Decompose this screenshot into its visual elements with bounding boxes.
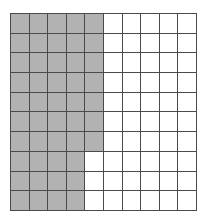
grid-cell-shaded bbox=[48, 112, 67, 132]
grid-cell-empty bbox=[141, 92, 160, 112]
grid-cell-empty bbox=[122, 171, 141, 191]
grid-row bbox=[11, 92, 197, 112]
grid-cell-shaded bbox=[48, 53, 67, 73]
grid-cell-shaded bbox=[11, 171, 30, 191]
grid-cell-empty bbox=[178, 92, 197, 112]
grid-cell-empty bbox=[141, 53, 160, 73]
grid-cell-empty bbox=[159, 171, 178, 191]
grid-cell-shaded bbox=[66, 14, 85, 34]
grid-cell-empty bbox=[103, 14, 122, 34]
grid-cell-empty bbox=[178, 171, 197, 191]
grid-cell-shaded bbox=[29, 92, 48, 112]
grid-cell-empty bbox=[122, 132, 141, 152]
grid-cell-shaded bbox=[29, 171, 48, 191]
grid-cell-empty bbox=[103, 151, 122, 171]
grid-cell-shaded bbox=[66, 151, 85, 171]
grid-cell-empty bbox=[122, 53, 141, 73]
grid-cell-shaded bbox=[85, 132, 104, 152]
grid-cell-shaded bbox=[48, 171, 67, 191]
grid-cell-shaded bbox=[48, 33, 67, 53]
grid-table bbox=[10, 13, 197, 211]
grid-cell-empty bbox=[141, 151, 160, 171]
grid-cell-shaded bbox=[48, 151, 67, 171]
grid-cell-empty bbox=[122, 151, 141, 171]
grid-cell-shaded bbox=[11, 132, 30, 152]
grid-cell-empty bbox=[103, 53, 122, 73]
grid-cell-shaded bbox=[66, 191, 85, 211]
grid-cell-empty bbox=[85, 151, 104, 171]
grid-cell-shaded bbox=[48, 92, 67, 112]
grid-cell-empty bbox=[178, 191, 197, 211]
grid-cell-empty bbox=[159, 132, 178, 152]
grid-cell-shaded bbox=[48, 14, 67, 34]
grid-cell-empty bbox=[159, 73, 178, 93]
grid-cell-shaded bbox=[85, 14, 104, 34]
grid-cell-shaded bbox=[11, 53, 30, 73]
grid-cell-empty bbox=[122, 92, 141, 112]
grid-cell-empty bbox=[103, 33, 122, 53]
grid-cell-empty bbox=[103, 132, 122, 152]
grid-cell-shaded bbox=[66, 73, 85, 93]
grid-cell-shaded bbox=[11, 92, 30, 112]
grid-row bbox=[11, 33, 197, 53]
grid-cell-shaded bbox=[29, 33, 48, 53]
grid-row bbox=[11, 73, 197, 93]
grid-cell-empty bbox=[159, 151, 178, 171]
grid-cell-shaded bbox=[11, 73, 30, 93]
grid-cell-empty bbox=[103, 73, 122, 93]
grid-cell-shaded bbox=[66, 112, 85, 132]
grid-cell-shaded bbox=[29, 191, 48, 211]
grid-cell-empty bbox=[159, 33, 178, 53]
grid-cell-shaded bbox=[85, 53, 104, 73]
grid-row bbox=[11, 171, 197, 191]
grid-cell-empty bbox=[141, 132, 160, 152]
grid-cell-shaded bbox=[29, 132, 48, 152]
grid-cell-shaded bbox=[29, 14, 48, 34]
grid-cell-empty bbox=[141, 112, 160, 132]
grid-cell-shaded bbox=[11, 151, 30, 171]
grid-cell-shaded bbox=[66, 92, 85, 112]
grid-cell-shaded bbox=[48, 191, 67, 211]
grid-cell-shaded bbox=[11, 33, 30, 53]
grid-cell-empty bbox=[103, 92, 122, 112]
grid-cell-empty bbox=[122, 191, 141, 211]
grid-cell-empty bbox=[122, 14, 141, 34]
grid-cell-empty bbox=[103, 112, 122, 132]
grid-cell-empty bbox=[178, 14, 197, 34]
grid-cell-empty bbox=[141, 171, 160, 191]
grid-cell-empty bbox=[103, 171, 122, 191]
grid-cell-empty bbox=[159, 53, 178, 73]
grid-row bbox=[11, 112, 197, 132]
grid-cell-shaded bbox=[66, 132, 85, 152]
grid-cell-empty bbox=[178, 33, 197, 53]
grid-cell-empty bbox=[122, 112, 141, 132]
grid-body bbox=[11, 14, 197, 211]
grid-row bbox=[11, 14, 197, 34]
grid-row bbox=[11, 191, 197, 211]
grid-cell-empty bbox=[178, 151, 197, 171]
grid-cell-shaded bbox=[11, 112, 30, 132]
grid-cell-shaded bbox=[66, 171, 85, 191]
grid-cell-shaded bbox=[85, 92, 104, 112]
grid-cell-empty bbox=[159, 92, 178, 112]
grid-cell-shaded bbox=[11, 14, 30, 34]
grid-row bbox=[11, 53, 197, 73]
grid-cell-shaded bbox=[29, 151, 48, 171]
grid-cell-empty bbox=[178, 112, 197, 132]
grid-cell-shaded bbox=[66, 53, 85, 73]
grid-cell-empty bbox=[178, 53, 197, 73]
grid-cell-shaded bbox=[11, 191, 30, 211]
grid-cell-empty bbox=[159, 14, 178, 34]
grid-cell-shaded bbox=[85, 112, 104, 132]
grid-cell-empty bbox=[85, 171, 104, 191]
grid-cell-shaded bbox=[29, 73, 48, 93]
grid-cell-shaded bbox=[29, 112, 48, 132]
grid-cell-shaded bbox=[29, 53, 48, 73]
grid-cell-shaded bbox=[66, 33, 85, 53]
grid-cell-empty bbox=[159, 191, 178, 211]
grid-row bbox=[11, 151, 197, 171]
grid-cell-empty bbox=[141, 73, 160, 93]
grid-cell-empty bbox=[103, 191, 122, 211]
grid-cell-shaded bbox=[48, 132, 67, 152]
grid-cell-empty bbox=[159, 112, 178, 132]
